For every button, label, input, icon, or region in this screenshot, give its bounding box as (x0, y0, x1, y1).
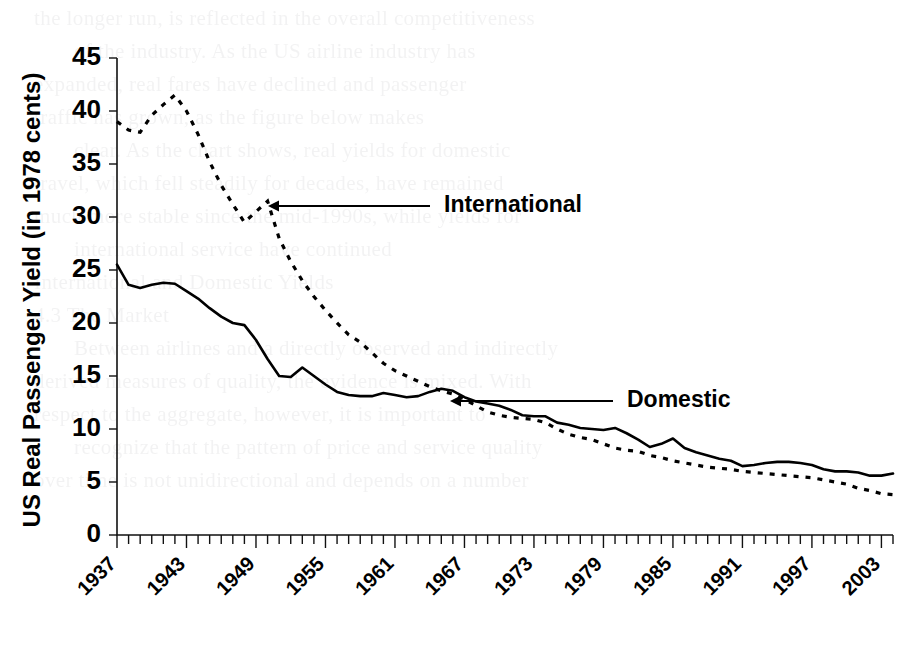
y-axis-title: US Real Passenger Yield (in 1978 cents) (18, 73, 45, 528)
series-line-domestic (117, 265, 893, 476)
chart-svg: US Real Passenger Yield (in 1978 cents) … (0, 0, 921, 665)
y-axis-tick-label: 5 (87, 465, 101, 495)
x-axis-tick-label: 1979 (559, 552, 606, 599)
x-axis-ticks (117, 535, 893, 548)
series-annotation-label: International (444, 191, 582, 217)
x-axis-tick-label: 1943 (142, 552, 189, 599)
y-axis-title-group: US Real Passenger Yield (in 1978 cents) (18, 73, 45, 528)
series-line-international (117, 95, 893, 495)
x-axis-tick-label: 1973 (490, 552, 537, 599)
chart-figure: US Real Passenger Yield (in 1978 cents) … (0, 0, 921, 665)
y-axis-tick-label: 15 (72, 359, 101, 389)
annotation-arrow-head (450, 396, 461, 407)
y-axis-tick-label: 40 (72, 94, 101, 124)
x-axis-tick-labels: 1937194319491955196119671973197919851991… (73, 552, 884, 599)
x-axis-tick-label: 2003 (837, 552, 884, 599)
x-axis-tick-label: 1997 (768, 552, 815, 599)
y-axis-tick-label: 25 (72, 253, 101, 283)
x-axis-tick-label: 1967 (420, 552, 467, 599)
x-axis-tick-label: 1949 (212, 552, 259, 599)
y-axis-tick-label: 20 (72, 306, 101, 336)
x-axis-tick-label: 1955 (281, 552, 328, 599)
x-axis-tick-label: 1937 (73, 552, 120, 599)
y-axis-tick-label: 35 (72, 147, 101, 177)
y-axis-ticks: 051015202530354045 (72, 41, 117, 548)
x-axis-tick-label: 1991 (698, 552, 745, 599)
y-axis-tick-label: 10 (72, 412, 101, 442)
series-annotations: InternationalDomestic (268, 191, 731, 412)
series-annotation-label: Domestic (627, 386, 731, 412)
annotation-arrow-head (268, 201, 279, 212)
x-axis-tick-label: 1961 (351, 552, 398, 599)
y-axis-tick-label: 30 (72, 200, 101, 230)
x-axis-tick-label: 1985 (629, 552, 676, 599)
axis-spines (117, 58, 893, 535)
y-axis-tick-label: 45 (72, 41, 101, 71)
y-axis-tick-label: 0 (87, 518, 101, 548)
